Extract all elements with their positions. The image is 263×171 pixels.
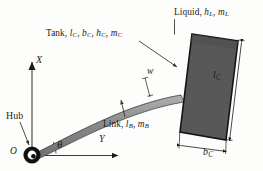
deflection-measure-w — [142, 77, 153, 97]
liquid-label: Liquid, hL, mL — [174, 8, 229, 18]
tank-label-prefix: Tank, — [46, 28, 70, 38]
link-label-prefix: Link, — [103, 119, 126, 129]
tank-length-label: lC — [213, 70, 221, 82]
tank-param-lc-sub: C — [72, 31, 77, 38]
coordinate-axes — [32, 62, 118, 156]
axis-y-label: Y — [99, 134, 105, 144]
tank-width-label: bC — [203, 147, 213, 159]
liquid-label-prefix: Liquid, — [174, 7, 204, 17]
liquid-param-hl-sub: L — [209, 10, 213, 17]
hub-joint — [23, 146, 40, 163]
tank-param-bc-sub: C — [87, 31, 92, 38]
tank-param-hc-sub: C — [101, 31, 106, 38]
tank-width-sub: C — [208, 151, 213, 159]
tank-length-sub: C — [216, 74, 221, 82]
deflection-label: w — [147, 67, 153, 77]
leader-line-hub — [20, 122, 29, 145]
tank-param-mc-sym: m — [111, 28, 118, 38]
link-param-mb-sub: B — [145, 122, 149, 129]
tank-param-mc-sub: C — [118, 31, 123, 38]
diagram-svg — [0, 0, 263, 171]
link-param-mb-sym: m — [138, 119, 145, 129]
hub-label: Hub — [6, 111, 23, 121]
theta-angle-label: θ — [57, 139, 63, 150]
liquid-param-ml-sub: L — [225, 10, 229, 17]
tank-label: Tank, lC, bC, hC, mC — [46, 29, 122, 39]
axis-x-label: X — [36, 55, 42, 65]
link-param-lb-sub: B — [129, 122, 133, 129]
origin-label: O — [10, 147, 17, 157]
leader-line-tank — [139, 41, 177, 67]
link-label: Link, lB, mB — [103, 120, 149, 130]
diagram-canvas: Tank, lC, bC, hC, mC Liquid, hL, mL Link… — [0, 0, 263, 171]
liquid-tank-body — [180, 34, 238, 140]
liquid-param-ml-sym: m — [218, 7, 225, 17]
